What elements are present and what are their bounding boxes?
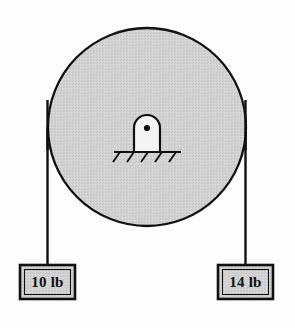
weight-right: [218, 265, 273, 299]
axle-pin-icon: [144, 125, 150, 131]
pulley-diagram: 10 lb 14 lb: [0, 0, 295, 328]
axle-mount: [134, 115, 160, 152]
weight-right-box: [218, 265, 273, 299]
weight-left: [20, 265, 75, 299]
weight-left-box: [20, 265, 75, 299]
pulley-diagram-canvas: [0, 0, 295, 328]
axle-mount-body: [134, 115, 160, 152]
